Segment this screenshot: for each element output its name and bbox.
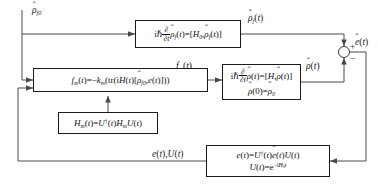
hamiltonian-transform-block[interactable]: Hm(t)=U†(t)HmU(t) [58, 112, 158, 134]
arrow-feedback-into-field-law [26, 85, 33, 91]
arrow-into-field-law-left [26, 77, 33, 83]
error-transform-block[interactable]: e(t)=U†(t)̂e(t)U(t) U(t)=e−iH0t [206, 145, 330, 177]
label-actual-state: ̂ρ(t) [306, 62, 320, 72]
label-initial-state: ̂ρf0 [32, 6, 41, 16]
summing-junction-plus: + [350, 42, 355, 51]
arrow-into-error-transform [330, 158, 337, 164]
arrow-into-controlled-evolution [215, 77, 222, 83]
control-field-equation: fm(t)=−km(tr(iH(t)[̂ρf0,e(t)])) [71, 75, 169, 85]
label-reference-state: ̂ρf(t) [248, 14, 263, 24]
arrow-into-free-evolution [128, 31, 135, 37]
summing-junction [338, 46, 350, 58]
free-evolution-equation: iℏ∂∂t̂ρf(t)=[H0,̂ρf(t)] [154, 26, 222, 42]
control-field-block[interactable]: fm(t)=−km(tr(iH(t)[̂ρf0,e(t)])) [33, 68, 208, 92]
controlled-evolution-equation-2: ̂ρ(0)=̂ρ0 [248, 86, 275, 96]
label-feedback-signal: e(t),U(t) [152, 150, 183, 160]
free-evolution-block[interactable]: iℏ∂∂t̂ρf(t)=[H0,̂ρf(t)] [135, 20, 241, 48]
controlled-evolution-block[interactable]: iℏ∂∂t̂ρ(t)=[H,̂ρ(t)] ̂ρ(0)=̂ρ0 [222, 64, 301, 100]
arrow-into-sum-minus [341, 58, 347, 65]
error-transform-equation-2: U(t)=e−iH0t [250, 162, 287, 172]
error-transform-equation-1: e(t)=U†(t)̂e(t)U(t) [236, 150, 299, 160]
summing-junction-minus: − [350, 54, 355, 63]
arrow-into-field-law-bottom [105, 96, 111, 103]
label-error-hat: ̂e(t) [355, 38, 368, 48]
hamiltonian-transform-equation: Hm(t)=U†(t)HmU(t) [74, 118, 142, 128]
controlled-evolution-equation-1: iℏ∂∂t̂ρ(t)=[H,̂ρ(t)] [231, 68, 293, 84]
block-diagram-canvas: ̂ρf0 ̂ρf(t) ̂ρ(t) fm(t) ̂e(t) e(t),U(t) … [0, 0, 378, 185]
